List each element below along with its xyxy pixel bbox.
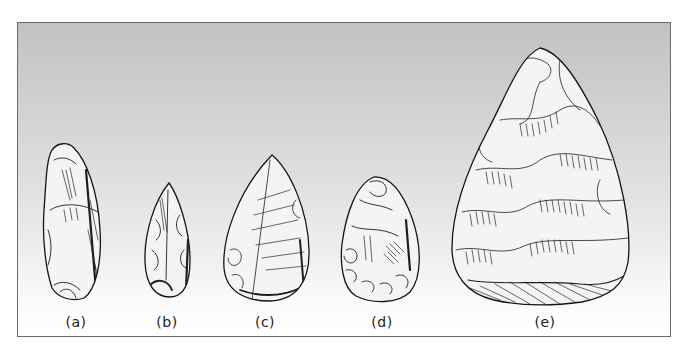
hand-axe-b [145, 183, 190, 297]
hand-axe-e [452, 48, 629, 305]
label-a: (a) [65, 314, 86, 330]
hand-axes-illustration [0, 0, 687, 360]
label-d: (d) [371, 314, 392, 330]
hand-axe-c [224, 155, 309, 301]
hand-axe-a [43, 144, 100, 300]
hand-axe-d [341, 177, 419, 302]
label-c: (c) [255, 314, 275, 330]
label-e: (e) [534, 314, 555, 330]
label-b: (b) [156, 314, 177, 330]
